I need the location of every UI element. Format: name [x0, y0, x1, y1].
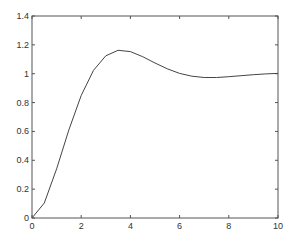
y-tick-label: 1.2: [16, 40, 29, 50]
tick-labels: 024681000.20.40.60.811.21.4: [16, 11, 283, 231]
y-tick-label: 0.6: [16, 126, 29, 136]
axes-box: [32, 16, 278, 218]
y-tick-label: 1.4: [16, 11, 29, 21]
response-curve: [32, 50, 278, 218]
y-tick-label: 0.4: [16, 155, 29, 165]
plot-area: 024681000.20.40.60.811.21.4: [0, 0, 295, 243]
x-tick-label: 4: [128, 221, 133, 231]
y-tick-label: 0.2: [16, 184, 29, 194]
y-tick-label: 0.8: [16, 98, 29, 108]
y-tick-label: 0: [24, 213, 29, 223]
x-tick-label: 0: [29, 221, 34, 231]
x-tick-label: 2: [79, 221, 84, 231]
x-tick-label: 10: [273, 221, 283, 231]
y-tick-label: 1: [24, 69, 29, 79]
axis-ticks: [32, 16, 278, 218]
x-tick-label: 8: [226, 221, 231, 231]
x-tick-label: 6: [177, 221, 182, 231]
